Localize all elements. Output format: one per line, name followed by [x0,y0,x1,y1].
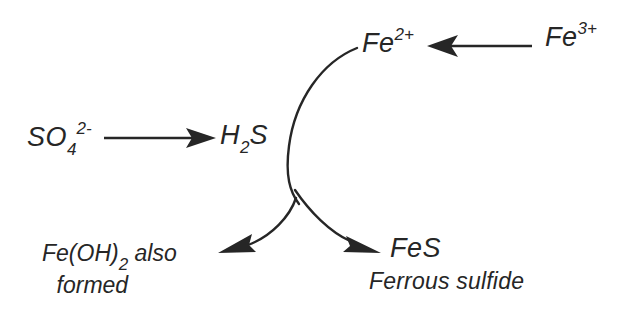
fe3-superscript: 3+ [578,19,597,38]
fe3-base: Fe [545,22,578,52]
fes-base: FeS [390,233,441,263]
caption-ferrous-sulfide: Ferrous sulfide [369,270,524,293]
label-iron-hydroxide-note: Fe(OH)2 also formed [42,240,177,299]
sulfate-superscript: 2- [76,119,91,138]
arrow-ferric-to-ferrous [427,35,532,57]
sulfate-subscript: 4 [67,140,76,159]
arrow-sulfate-to-h2s [104,128,216,148]
label-ferric-ion: Fe3+ [545,22,597,51]
h2s-base-2: S [249,120,268,150]
feoh2-base-1: Fe(OH) [42,240,119,266]
label-ferrous-ion: Fe2+ [362,28,414,57]
fe2-superscript: 2+ [395,25,414,44]
h2s-base-1: H [220,120,240,150]
curve-branch-to-iron-sulfide [295,190,381,253]
label-sulfate: SO42- [27,122,92,155]
caption-formed: formed [42,272,177,299]
label-hydrogen-sulfide: H2S [220,122,268,153]
label-iron-sulfide: FeS [390,235,441,262]
sulfate-base: SO [27,122,67,152]
fe2-base: Fe [362,28,395,58]
curve-branch-to-iron-hydroxide [218,198,296,253]
curve-ferrous-main [288,48,357,204]
feoh2-subscript: 2 [119,255,128,274]
feoh2-also-word: also [135,240,177,266]
h2s-subscript: 2 [240,138,249,157]
reaction-diagram: SO42- H2S Fe2+ Fe3+ FeS Ferrous sulfide … [0,0,624,318]
